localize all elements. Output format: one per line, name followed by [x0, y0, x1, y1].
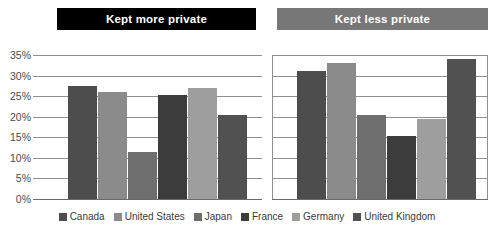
y-axis-tick-label: 25%: [3, 91, 31, 102]
bars-kept-more-private: [45, 55, 262, 199]
legend-item: Canada: [59, 211, 105, 222]
legend-swatch-icon: [353, 213, 361, 221]
plot-area: 35%30%25%20%15%10%5%0%: [0, 52, 494, 202]
legend-swatch-icon: [194, 213, 202, 221]
y-axis-tick-label: 10%: [3, 153, 31, 164]
legend-swatch-icon: [241, 213, 249, 221]
panel-header-left-label: Kept more private: [106, 13, 207, 25]
legend-swatch-icon: [292, 213, 300, 221]
bar: [417, 119, 446, 199]
legend-label: United States: [125, 211, 185, 222]
bar: [297, 71, 326, 199]
panel-kept-less-private: [284, 52, 488, 202]
panel-header-right-label: Kept less private: [335, 13, 430, 25]
panel-header-kept-less-private: Kept less private: [277, 8, 488, 30]
y-axis-tick-label: 20%: [3, 111, 31, 122]
bar: [218, 115, 247, 199]
top-margin-strip: [0, 0, 494, 6]
legend-swatch-icon: [114, 213, 122, 221]
bar: [68, 86, 97, 199]
y-axis-tick-label: 35%: [3, 50, 31, 61]
chart-legend: CanadaUnited StatesJapanFranceGermanyUni…: [0, 211, 494, 222]
legend-item: France: [241, 211, 283, 222]
panel-header-kept-more-private: Kept more private: [57, 8, 256, 30]
legend-swatch-icon: [59, 213, 67, 221]
bar: [357, 115, 386, 199]
bar: [128, 152, 157, 199]
legend-label: Japan: [205, 211, 232, 222]
legend-label: France: [252, 211, 283, 222]
y-axis-tick-label: 5%: [3, 173, 31, 184]
bar: [327, 63, 356, 199]
y-axis-tick-label: 15%: [3, 132, 31, 143]
bar: [158, 95, 187, 199]
bar: [98, 92, 127, 199]
legend-label: United Kingdom: [364, 211, 435, 222]
y-axis: 35%30%25%20%15%10%5%0%: [0, 52, 31, 202]
y-axis-tick-label: 30%: [3, 70, 31, 81]
grouped-bar-chart-figure: Kept more private Kept less private 35%3…: [0, 0, 494, 234]
legend-item: Germany: [292, 211, 344, 222]
bar: [387, 136, 416, 199]
legend-label: Canada: [70, 211, 105, 222]
legend-label: Germany: [303, 211, 344, 222]
y-axis-tick-label: 0%: [3, 194, 31, 205]
legend-item: United Kingdom: [353, 211, 435, 222]
bar: [447, 59, 476, 199]
legend-item: United States: [114, 211, 185, 222]
bars-kept-less-private: [284, 55, 488, 199]
panel-kept-more-private: [45, 52, 262, 202]
panel-edge-line: [272, 55, 273, 199]
bar: [188, 88, 217, 199]
legend-item: Japan: [194, 211, 232, 222]
